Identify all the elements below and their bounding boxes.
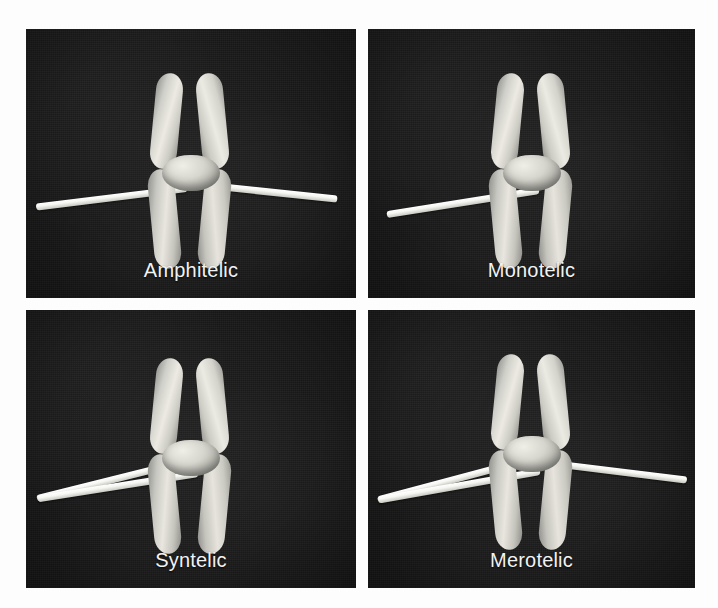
chromosome-syntelic: [137, 358, 245, 554]
centromere: [162, 155, 220, 191]
panel-syntelic[interactable]: Syntelic: [26, 310, 356, 588]
panel-amphitelic[interactable]: Amphitelic: [26, 29, 356, 298]
panel-label-merotelic: Merotelic: [368, 549, 695, 572]
panel-merotelic[interactable]: Merotelic: [368, 310, 695, 588]
centromere: [503, 436, 561, 472]
centromere: [162, 440, 220, 476]
figure-container: Amphitelic Monotelic Syntelic: [0, 0, 718, 608]
panel-label-monotelic: Monotelic: [368, 259, 695, 282]
panel-label-amphitelic: Amphitelic: [26, 259, 356, 282]
chromosome-merotelic: [478, 354, 586, 550]
chromosome-monotelic: [478, 73, 586, 269]
chromosome-amphitelic: [137, 73, 245, 269]
panel-label-syntelic: Syntelic: [26, 549, 356, 572]
panel-monotelic[interactable]: Monotelic: [368, 29, 695, 298]
centromere: [503, 155, 561, 191]
